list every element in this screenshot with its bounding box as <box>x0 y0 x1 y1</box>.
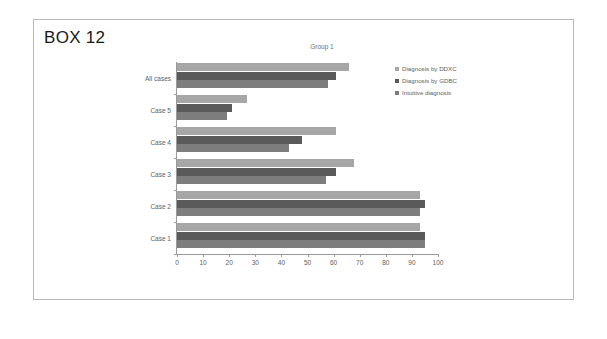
x-axis-tick <box>360 254 361 257</box>
bar <box>177 136 302 144</box>
x-axis-tick <box>438 254 439 257</box>
x-axis-tick-label: 0 <box>175 259 179 266</box>
page-canvas: BOX 12 Group 1 All casesCase 5Case 4Case… <box>0 0 607 339</box>
legend-label: Diagnosis by DDXC <box>402 64 457 74</box>
bar <box>177 144 289 152</box>
x-axis-tick-label: 70 <box>356 259 363 266</box>
bar <box>177 240 425 248</box>
bar-group: Case 2 <box>177 190 438 222</box>
x-axis-tick-label: 100 <box>433 259 444 266</box>
bar <box>177 104 232 112</box>
bar <box>177 80 328 88</box>
legend-item[interactable]: Intuitive diagnosis <box>395 88 499 98</box>
bar <box>177 208 420 216</box>
legend-label: Intuitive diagnosis <box>402 88 451 98</box>
legend-item[interactable]: Diagnosis by DDXC <box>395 64 499 74</box>
category-label: Case 4 <box>150 139 171 146</box>
bar <box>177 176 326 184</box>
x-axis-tick <box>281 254 282 257</box>
bar <box>177 168 336 176</box>
box-title: BOX 12 <box>44 28 105 48</box>
category-label: Case 2 <box>150 203 171 210</box>
x-axis-tick-label: 20 <box>226 259 233 266</box>
bar <box>177 95 247 103</box>
x-axis-tick-label: 50 <box>304 259 311 266</box>
x-axis-tick <box>255 254 256 257</box>
bar <box>177 127 336 135</box>
bar <box>177 223 420 231</box>
chart-legend: Diagnosis by DDXCDiagnosis by GDBCIntuit… <box>395 64 499 100</box>
x-axis-tick-label: 60 <box>330 259 337 266</box>
bar <box>177 159 354 167</box>
x-axis-tick-label: 10 <box>199 259 206 266</box>
chart-title: Group 1 <box>262 43 382 50</box>
x-axis-tick <box>229 254 230 257</box>
x-axis-tick <box>308 254 309 257</box>
bar <box>177 72 336 80</box>
x-axis-tick-label: 40 <box>278 259 285 266</box>
legend-swatch-icon <box>395 91 399 95</box>
bar <box>177 112 227 120</box>
legend-swatch-icon <box>395 79 399 83</box>
bar-group: Case 4 <box>177 126 438 158</box>
bar <box>177 63 349 71</box>
x-axis-tick-label: 90 <box>408 259 415 266</box>
x-axis-tick-label: 80 <box>382 259 389 266</box>
x-axis-tick <box>412 254 413 257</box>
legend-swatch-icon <box>395 67 399 71</box>
bar-chart: Group 1 All casesCase 5Case 4Case 3Case … <box>112 38 502 286</box>
bar-group: Case 3 <box>177 158 438 190</box>
x-axis-tick <box>334 254 335 257</box>
category-label: Case 5 <box>150 107 171 114</box>
x-axis-tick <box>203 254 204 257</box>
bar <box>177 232 425 240</box>
legend-item[interactable]: Diagnosis by GDBC <box>395 76 499 86</box>
category-label: Case 1 <box>150 235 171 242</box>
category-label: All cases <box>145 75 171 82</box>
bar <box>177 191 420 199</box>
bar <box>177 200 425 208</box>
x-axis-tick <box>177 254 178 257</box>
category-label: Case 3 <box>150 171 171 178</box>
legend-label: Diagnosis by GDBC <box>402 76 457 86</box>
x-axis-tick-label: 30 <box>252 259 259 266</box>
x-axis-tick <box>386 254 387 257</box>
bar-group: Case 1 <box>177 222 438 254</box>
